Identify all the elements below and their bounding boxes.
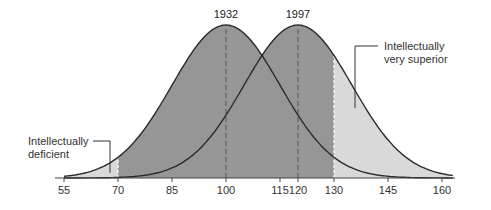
deficient-label: Intellectually <box>28 135 89 147</box>
label-1932: 1932 <box>214 8 238 20</box>
tick-label: 130 <box>325 184 343 196</box>
tick-label: 100 <box>217 184 235 196</box>
iq-distribution-chart: 557085100115120130145160 1932 1997 Intel… <box>0 0 491 210</box>
tick-label: 70 <box>112 184 124 196</box>
superior-region <box>334 0 449 178</box>
x-axis-ticks: 557085100115120130145160 <box>58 178 451 196</box>
label-1997: 1997 <box>286 8 310 20</box>
tick-label: 145 <box>379 184 397 196</box>
superior-label-2: very superior <box>384 53 448 65</box>
tick-label: 160 <box>433 184 451 196</box>
tick-label: 55 <box>58 184 70 196</box>
deficient-label-2: deficient <box>28 148 69 160</box>
shaded-regions <box>64 0 449 178</box>
superior-label: Intellectually <box>384 40 445 52</box>
tick-label: 115 <box>271 184 289 196</box>
tick-label: 120 <box>289 184 307 196</box>
tick-label: 85 <box>166 184 178 196</box>
